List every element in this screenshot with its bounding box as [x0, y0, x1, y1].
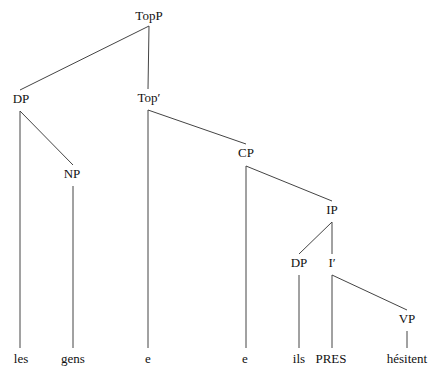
tree-edge [299, 222, 332, 254]
node-topbar: Top′ [138, 91, 161, 105]
node-gens: gens [61, 352, 85, 366]
tree-edges [0, 0, 439, 376]
node-hesitent: hésitent [387, 352, 427, 366]
node-topp: TopP [135, 9, 162, 23]
node-les: les [14, 352, 28, 366]
tree-edge [20, 111, 73, 165]
node-e1: e [145, 352, 151, 366]
tree-edge [332, 275, 407, 310]
node-ils: ils [293, 352, 305, 366]
node-vp: VP [399, 312, 416, 326]
tree-edge [148, 26, 149, 89]
node-dp1: DP [13, 92, 30, 106]
node-dp2: DP [291, 256, 308, 270]
node-e2: e [242, 352, 248, 366]
tree-edge [20, 26, 149, 90]
node-ip: IP [326, 203, 338, 217]
tree-edge [246, 166, 332, 201]
node-cp: CP [238, 146, 254, 160]
node-pres: PRES [315, 352, 346, 366]
node-np: NP [64, 167, 81, 181]
tree-edge [148, 110, 246, 144]
node-ibar: I′ [328, 256, 335, 270]
